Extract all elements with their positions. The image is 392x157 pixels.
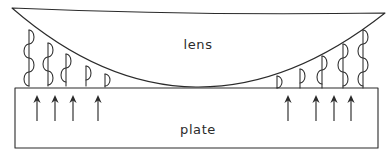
up-arrow [94, 95, 101, 121]
plate-label: plate [180, 122, 216, 137]
up-arrow [51, 95, 58, 121]
plate-outline [15, 88, 378, 148]
arrow-group-right [284, 95, 354, 121]
up-arrow [347, 95, 354, 121]
up-arrow [69, 95, 76, 121]
wave-ray [300, 69, 305, 83]
arrow-group-left [33, 95, 101, 121]
up-arrow [284, 95, 291, 121]
wave-ray [105, 74, 110, 86]
wave-group-left [24, 30, 110, 87]
wave-ray [86, 66, 91, 80]
lens-label: lens [183, 37, 212, 52]
wave-group-right [277, 30, 368, 88]
diagram-canvas: lens plate [0, 0, 392, 157]
up-arrow [330, 95, 337, 121]
figure-root: lens plate [0, 0, 392, 157]
wave-ray [277, 76, 282, 88]
up-arrow [312, 95, 319, 121]
up-arrow [33, 95, 40, 121]
